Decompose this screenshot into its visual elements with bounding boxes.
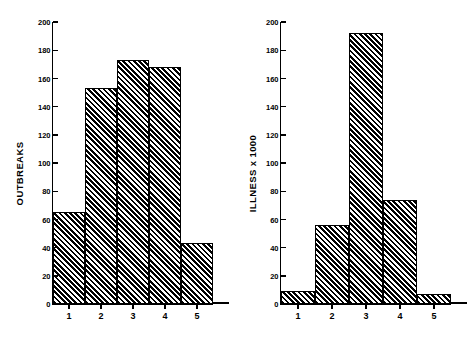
bar-outbreaks-2	[85, 88, 117, 304]
plot-area-outbreaks: 02040608010012014016018020012345	[52, 22, 213, 305]
y-axis-tick-label: 180	[38, 47, 53, 55]
bar-outbreaks-3	[117, 60, 149, 304]
x-axis-overhang	[213, 302, 229, 304]
bar-cell	[85, 22, 117, 304]
bar-series-outbreaks	[53, 22, 213, 304]
y-axis-tick-mark	[53, 21, 58, 22]
y-axis-tick-label: 60	[270, 216, 281, 224]
x-axis-tick-label: 4	[163, 312, 168, 321]
x-axis-tick-mark	[100, 304, 101, 309]
y-axis-tick-mark	[53, 134, 58, 135]
bar-cell	[117, 22, 149, 304]
x-axis-tick-label: 2	[330, 312, 335, 321]
x-axis-tick-mark	[164, 304, 165, 309]
bar-outbreaks-4	[149, 67, 181, 304]
y-axis-tick-mark	[53, 78, 58, 79]
x-axis-tick-label: 5	[195, 312, 200, 321]
x-axis-tick-mark	[196, 304, 197, 309]
x-axis-tick-mark	[297, 304, 298, 309]
x-axis-overhang	[451, 302, 467, 304]
x-axis-tick-mark	[331, 304, 332, 309]
y-axis-tick-label: 20	[270, 273, 281, 281]
x-axis-tick-mark	[399, 304, 400, 309]
y-axis-title-illness: ILLNESS x 1000	[244, 0, 260, 347]
y-axis-tick-label: 80	[270, 188, 281, 196]
bar-illness-5	[417, 294, 451, 304]
bar-cell	[181, 22, 213, 304]
x-axis-tick-label: 4	[398, 312, 403, 321]
bar-cell	[349, 22, 383, 304]
y-axis-tick-label: 100	[38, 160, 53, 168]
y-axis-tick-mark	[53, 50, 58, 51]
bar-cell	[417, 22, 451, 304]
y-axis-tick-label: 140	[38, 103, 53, 111]
y-axis-tick-label: 200	[266, 19, 281, 27]
y-axis-tick-label: 0	[274, 301, 281, 309]
y-axis-tick-mark	[281, 50, 286, 51]
y-axis-tick-label: 40	[270, 244, 281, 252]
y-axis-title-outbreaks: OUTBREAKS	[11, 0, 27, 347]
y-axis-tick-mark	[53, 106, 58, 107]
x-axis-tick-label: 1	[296, 312, 301, 321]
bar-illness-1	[281, 291, 315, 304]
figure-canvas: OUTBREAKS 020406080100120140160180200123…	[0, 0, 476, 347]
y-axis-tick-mark	[53, 303, 58, 304]
bar-cell	[149, 22, 181, 304]
y-axis-tick-mark	[281, 303, 286, 304]
x-axis-tick-label: 5	[432, 312, 437, 321]
y-axis-tick-label: 140	[266, 103, 281, 111]
y-axis-tick-mark	[281, 106, 286, 107]
y-axis-tick-label: 160	[266, 75, 281, 83]
x-axis-tick-mark	[365, 304, 366, 309]
plot-area-illness: 02040608010012014016018020012345	[280, 22, 451, 305]
bar-cell	[281, 22, 315, 304]
y-axis-tick-label: 120	[266, 132, 281, 140]
bar-illness-3	[349, 33, 383, 304]
y-axis-tick-label: 20	[42, 273, 53, 281]
x-axis-tick-label: 1	[67, 312, 72, 321]
y-axis-tick-label: 200	[38, 19, 53, 27]
bar-outbreaks-5	[181, 243, 213, 304]
y-axis-tick-label: 120	[38, 132, 53, 140]
y-axis-tick-label: 180	[266, 47, 281, 55]
y-axis-tick-mark	[53, 275, 58, 276]
bar-illness-4	[383, 200, 417, 304]
bar-illness-2	[315, 225, 349, 304]
bar-cell	[383, 22, 417, 304]
y-axis-tick-mark	[53, 247, 58, 248]
bar-outbreaks-1	[53, 212, 85, 304]
y-axis-tick-label: 160	[38, 75, 53, 83]
y-axis-tick-label: 60	[42, 216, 53, 224]
x-axis-tick-mark	[132, 304, 133, 309]
y-axis-tick-label: 0	[46, 301, 53, 309]
y-axis-tick-label: 40	[42, 244, 53, 252]
y-axis-tick-mark	[281, 191, 286, 192]
x-axis-tick-label: 3	[131, 312, 136, 321]
y-axis-tick-label: 100	[266, 160, 281, 168]
outbreaks-panel: OUTBREAKS 020406080100120140160180200123…	[0, 0, 238, 347]
x-axis-tick-label: 2	[99, 312, 104, 321]
x-axis-tick-label: 3	[364, 312, 369, 321]
y-axis-tick-mark	[281, 21, 286, 22]
x-axis-tick-mark	[68, 304, 69, 309]
y-axis-tick-mark	[281, 275, 286, 276]
bar-series-illness	[281, 22, 451, 304]
x-axis-tick-mark	[433, 304, 434, 309]
bar-cell	[315, 22, 349, 304]
y-axis-tick-mark	[281, 78, 286, 79]
y-axis-tick-mark	[53, 219, 58, 220]
y-axis-tick-mark	[281, 134, 286, 135]
bar-cell	[53, 22, 85, 304]
y-axis-tick-mark	[281, 219, 286, 220]
y-axis-tick-mark	[281, 162, 286, 163]
y-axis-tick-label: 80	[42, 188, 53, 196]
y-axis-tick-mark	[53, 191, 58, 192]
y-axis-tick-mark	[53, 162, 58, 163]
y-axis-tick-mark	[281, 247, 286, 248]
illness-panel: ILLNESS x 1000 0204060801001201401601802…	[238, 0, 476, 347]
